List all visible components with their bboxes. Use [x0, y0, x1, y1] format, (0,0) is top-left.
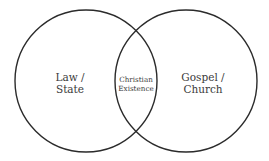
- law-state-label-line1: Law /: [46, 71, 94, 83]
- christian-existence-label-line2: Existence: [115, 84, 157, 93]
- law-state-label: Law / State: [46, 71, 94, 95]
- gospel-church-label-line1: Gospel /: [176, 71, 230, 83]
- gospel-church-label: Gospel / Church: [176, 71, 230, 95]
- christian-existence-label: Christian Existence: [115, 75, 157, 93]
- law-state-label-line2: State: [46, 83, 94, 95]
- christian-existence-label-line1: Christian: [115, 75, 157, 84]
- gospel-church-label-line2: Church: [176, 83, 230, 95]
